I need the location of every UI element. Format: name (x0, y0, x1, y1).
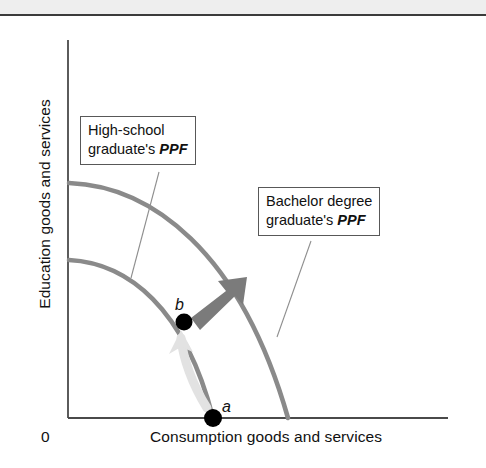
high-school-leader-line (131, 172, 159, 278)
movement-arrow-a-to-b (169, 330, 207, 408)
callout-bachelor-line2-prefix: graduate's (266, 212, 337, 228)
high-school-ppf-curve (69, 260, 213, 418)
callout-high-school-line1: High-school (88, 121, 188, 140)
callout-bachelor-line1: Bachelor degree (266, 192, 372, 211)
ppf-chart-canvas (0, 0, 486, 468)
bachelor-leader-line (277, 241, 311, 337)
callout-high-school-line2: graduate's PPF (88, 140, 188, 159)
point-b-marker (176, 314, 193, 331)
point-a-marker (204, 409, 222, 427)
y-axis-title: Education goods and services (36, 54, 54, 354)
callout-high-school-line2-prefix: graduate's (88, 141, 159, 157)
point-b-label: b (175, 296, 184, 314)
callout-bachelor-ppf-abbr: PPF (337, 212, 365, 228)
callout-bachelor-line2: graduate's PPF (266, 211, 372, 230)
origin-label: 0 (41, 428, 50, 446)
callout-high-school-ppf-abbr: PPF (159, 141, 187, 157)
ppf-figure: Education goods and services Consumption… (0, 0, 486, 468)
x-axis-title: Consumption goods and services (150, 428, 382, 446)
callout-bachelor-ppf: Bachelor degree graduate's PPF (258, 187, 380, 236)
callout-high-school-ppf: High-school graduate's PPF (80, 116, 196, 165)
point-a-label: a (222, 398, 231, 416)
